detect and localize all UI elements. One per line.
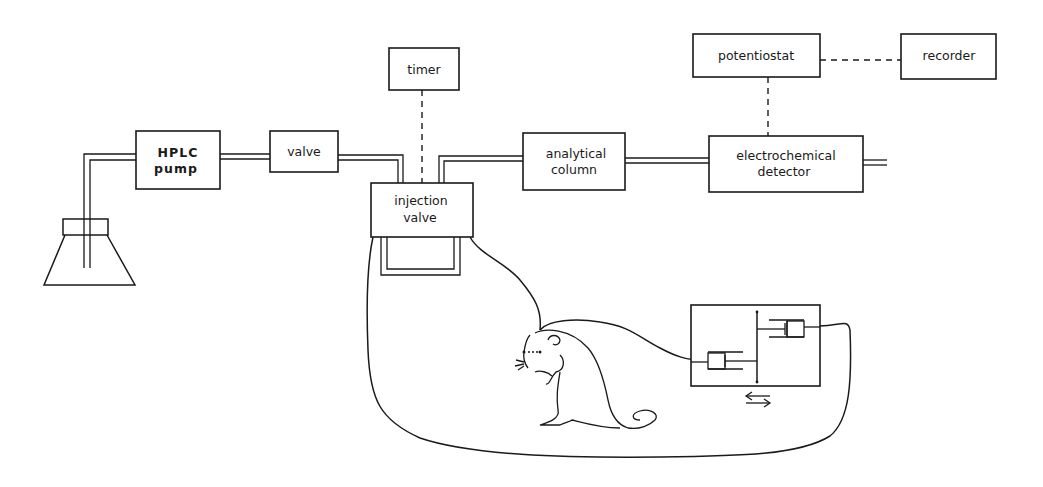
- valve-label: valve: [287, 144, 321, 159]
- analytical-column-box: analytical column: [523, 133, 625, 190]
- recorder-label: recorder: [923, 48, 977, 63]
- valve-box: valve: [270, 131, 338, 172]
- injection-valve-label-line2: valve: [403, 210, 437, 225]
- detector-label-line1: electrochemical: [736, 148, 835, 163]
- tubing-flask-to-pump: [84, 154, 136, 268]
- diagram-canvas: HPLC pump valve timer injection valve an…: [0, 0, 1043, 487]
- injection-valve-label-line1: injection: [394, 193, 447, 208]
- rat-icon: [515, 330, 656, 428]
- recorder-box: recorder: [901, 34, 996, 79]
- timer-label: timer: [407, 62, 441, 77]
- analytical-column-label-line2: column: [551, 162, 597, 177]
- probe-line-outlet: [540, 320, 708, 361]
- hplc-pump-label-line1: HPLC: [158, 145, 199, 160]
- tubing-detector-outlet: [863, 160, 887, 165]
- tubing-pump-to-valve: [220, 154, 270, 159]
- tubing-valve-to-injection: [338, 155, 403, 183]
- injection-valve-box: injection valve: [371, 183, 473, 237]
- reciprocating-arrows-icon: [746, 392, 770, 407]
- hplc-pump-box: HPLC pump: [136, 131, 220, 189]
- detector-label-line2: detector: [758, 164, 812, 179]
- sample-loop: [381, 237, 460, 275]
- timer-box: timer: [389, 48, 459, 90]
- analytical-column-label-line1: analytical: [546, 146, 607, 161]
- electrochemical-detector-box: electrochemical detector: [709, 136, 863, 192]
- potentiostat-box: potentiostat: [693, 34, 820, 77]
- dual-syringe-pump-icon: [691, 305, 820, 386]
- hplc-pump-label-line2: pump: [154, 161, 198, 176]
- probe-line-inlet: [470, 237, 540, 330]
- tubing-column-to-detector: [625, 158, 709, 163]
- tubing-injection-to-column: [439, 156, 523, 183]
- potentiostat-label: potentiostat: [718, 48, 794, 63]
